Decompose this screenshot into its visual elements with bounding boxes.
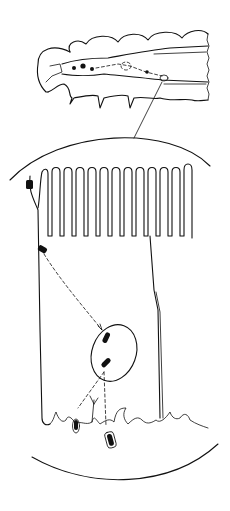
larva bbox=[37, 31, 209, 108]
magnification-pointer bbox=[134, 82, 162, 138]
diagram-canvas bbox=[0, 0, 230, 511]
epithelial-cell bbox=[26, 164, 208, 449]
magnified-field-bottom-arc bbox=[32, 444, 218, 480]
cell-nucleus bbox=[83, 318, 144, 388]
diagram-svg bbox=[0, 0, 230, 511]
